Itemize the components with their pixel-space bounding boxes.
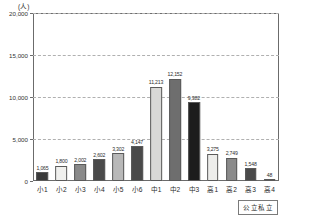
x-axis-tick-label: 高3 [245,184,256,194]
bar-slot: 3,302 [109,13,128,181]
bar[interactable] [93,159,105,181]
bar[interactable] [37,172,49,181]
bar[interactable] [245,168,257,181]
bar-value-label: 1,548 [245,161,257,167]
y-axis-tick-mark [30,181,33,182]
bar[interactable] [74,164,86,181]
y-axis-tick-label: 0 [0,178,28,185]
y-axis-tick-label: 10,000 [0,94,28,101]
bar-value-label: 3,275 [207,146,219,152]
bar-value-label: 48 [267,172,272,178]
x-axis-tick-label: 高2 [226,184,237,194]
bar-value-label: 4,147 [131,139,143,145]
x-axis-tick-label: 小4 [94,184,105,194]
bar[interactable] [264,179,276,181]
bar-slot: 48 [260,13,279,181]
y-axis-tick-label: 5,000 [0,136,28,143]
bar-slot: 1,800 [52,13,71,181]
bar-chart: (人) 05,00010,00015,00020,000 1,0651,8002… [0,0,309,220]
x-axis-tick-label: 高1 [207,184,218,194]
x-axis-tick-label: 小2 [56,184,67,194]
bar-value-label: 2,749 [226,150,238,156]
bar-slot: 4,147 [128,13,147,181]
bar-value-label: 12,152 [168,71,183,77]
bar-slot: 9,382 [184,13,203,181]
bar-slot: 1,548 [241,13,260,181]
bar-value-label: 11,213 [149,79,163,85]
bar[interactable] [207,154,219,182]
bar-value-label: 2,602 [93,152,105,158]
bar[interactable] [226,158,238,181]
bar[interactable] [56,166,68,181]
bar-value-label: 1,800 [55,158,67,164]
y-axis-tick-label: 15,000 [0,52,28,59]
x-axis-tick-label: 中1 [151,184,162,194]
bar-slot: 11,213 [147,13,166,181]
x-axis-tick-label: 中3 [189,184,200,194]
bar-slot: 1,065 [33,13,52,181]
bar-value-label: 9,382 [188,95,200,101]
bar[interactable] [131,146,143,181]
bars-container: 1,0651,8002,0022,6023,3024,14711,21312,1… [33,13,279,181]
x-axis-tick-label: 小1 [37,184,48,194]
bar[interactable] [169,79,181,181]
bar[interactable] [150,87,162,181]
bar-slot: 12,152 [165,13,184,181]
bar-slot: 3,275 [203,13,222,181]
bar-value-label: 1,065 [36,165,48,171]
bar-slot: 2,749 [222,13,241,181]
y-axis-tick-label: 20,000 [0,10,28,17]
bar[interactable] [188,102,200,181]
x-axis-tick-label: 高4 [264,184,275,194]
bar-slot: 2,002 [71,13,90,181]
bar-value-label: 2,002 [74,157,86,163]
bar[interactable] [112,153,124,181]
x-axis-tick-label: 小3 [75,184,86,194]
bar-value-label: 3,302 [112,146,124,152]
legend[interactable]: 公立私立 [238,200,278,215]
x-axis-tick-label: 小6 [132,184,143,194]
bar-slot: 2,602 [90,13,109,181]
x-axis-tick-label: 中2 [170,184,181,194]
x-axis-tick-label: 小5 [113,184,124,194]
